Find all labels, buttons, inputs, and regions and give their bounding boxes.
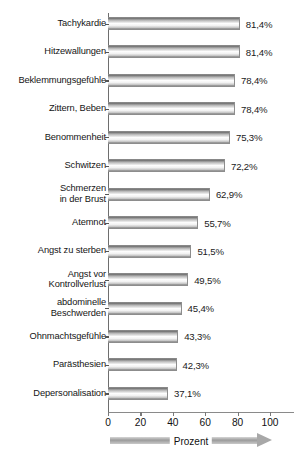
bar (108, 330, 178, 343)
bar-value-label: 72,2% (231, 160, 257, 171)
x-axis-line (108, 412, 294, 413)
bar-row: 75,3% (108, 131, 270, 144)
x-axis-tick (205, 412, 206, 416)
bar-value-label: 78,4% (241, 75, 267, 86)
bar-row: 49,5% (108, 273, 270, 286)
bar (108, 74, 235, 87)
bar (108, 188, 210, 201)
bar-value-label: 37,1% (174, 388, 200, 399)
category-tick-icon (105, 223, 109, 224)
bar (108, 159, 225, 172)
x-axis-tick (108, 412, 109, 416)
category-label: Beklemmungsgefühle (2, 75, 106, 85)
bar (108, 216, 198, 229)
bar-row: 62,9% (108, 188, 270, 201)
category-tick-icon (105, 393, 109, 394)
category-label: Ohnmachtsgefühle (2, 331, 106, 341)
arrow-head-icon (257, 433, 272, 447)
bar-row: 51,5% (108, 245, 270, 258)
x-axis-tick-label: 80 (232, 417, 243, 428)
category-label: Depersonalisation (2, 388, 106, 398)
bar-row: 45,4% (108, 302, 270, 315)
bar (108, 387, 168, 400)
bar-row: 37,1% (108, 387, 270, 400)
category-tick-icon (105, 109, 109, 110)
bar-value-label: 43,3% (184, 331, 210, 342)
bar-value-label: 51,5% (197, 246, 223, 257)
bar-row: 81,4% (108, 17, 270, 30)
category-tick-icon (105, 80, 109, 81)
category-tick-icon (105, 336, 109, 337)
bar-value-label: 45,4% (188, 303, 214, 314)
category-tick-icon (105, 280, 109, 281)
category-label: Parästhesien (2, 359, 106, 369)
category-label: abdominelle Beschwerden (2, 297, 106, 318)
bar (108, 358, 177, 371)
bar-row: 78,4% (108, 74, 270, 87)
category-label: Angst zu sterben (2, 245, 106, 255)
bar-value-label: 81,4% (246, 18, 272, 29)
x-axis-tick-label: 100 (262, 417, 279, 428)
x-axis-tick (140, 412, 141, 416)
category-label: Schwitzen (2, 160, 106, 170)
bar-row: 43,3% (108, 330, 270, 343)
bar-value-label: 62,9% (216, 189, 242, 200)
category-tick-icon (105, 308, 109, 309)
x-axis-tick-label: 20 (135, 417, 146, 428)
plot-area: 81,4%81,4%78,4%78,4%75,3%72,2%62,9%55,7%… (108, 13, 270, 412)
category-label: Zittern, Beben (2, 103, 106, 113)
axis-title-arrow: Prozent (110, 433, 272, 448)
bar (108, 102, 235, 115)
x-axis-title: Prozent (170, 435, 212, 446)
bar-value-label: 75,3% (236, 132, 262, 143)
x-axis-tick (238, 412, 239, 416)
x-axis-tick-label: 60 (200, 417, 211, 428)
category-tick-icon (105, 194, 109, 195)
category-tick-icon (105, 137, 109, 138)
category-label: Angst vor Kontrollverlust (2, 269, 106, 290)
bar-value-label: 49,5% (194, 274, 220, 285)
bar-row: 78,4% (108, 102, 270, 115)
bar (108, 302, 182, 315)
bar-chart: 81,4%81,4%78,4%78,4%75,3%72,2%62,9%55,7%… (0, 0, 302, 458)
bar (108, 245, 191, 258)
category-label: Benommenheit (2, 132, 106, 142)
bar-value-label: 78,4% (241, 103, 267, 114)
category-tick-icon (105, 24, 109, 25)
x-axis-tick (173, 412, 174, 416)
bar-value-label: 55,7% (204, 217, 230, 228)
category-label: Tachykardie (2, 18, 106, 28)
category-label: Hitzewallungen (2, 46, 106, 56)
category-tick-icon (105, 166, 109, 167)
category-tick-icon (105, 52, 109, 53)
category-label: Schmerzen in der Brust (2, 183, 106, 204)
bar-row: 55,7% (108, 216, 270, 229)
bar-row: 42,3% (108, 358, 270, 371)
x-axis-tick-label: 40 (167, 417, 178, 428)
bar (108, 131, 230, 144)
bar-row: 72,2% (108, 159, 270, 172)
bar-value-label: 81,4% (246, 46, 272, 57)
x-axis-tick-label: 0 (105, 417, 111, 428)
category-tick-icon (105, 365, 109, 366)
x-axis-tick (270, 412, 271, 416)
bar-value-label: 42,3% (183, 359, 209, 370)
bar (108, 273, 188, 286)
bar (108, 17, 240, 30)
bar (108, 45, 240, 58)
category-label: Atemnot (2, 217, 106, 227)
category-tick-icon (105, 251, 109, 252)
bar-row: 81,4% (108, 45, 270, 58)
